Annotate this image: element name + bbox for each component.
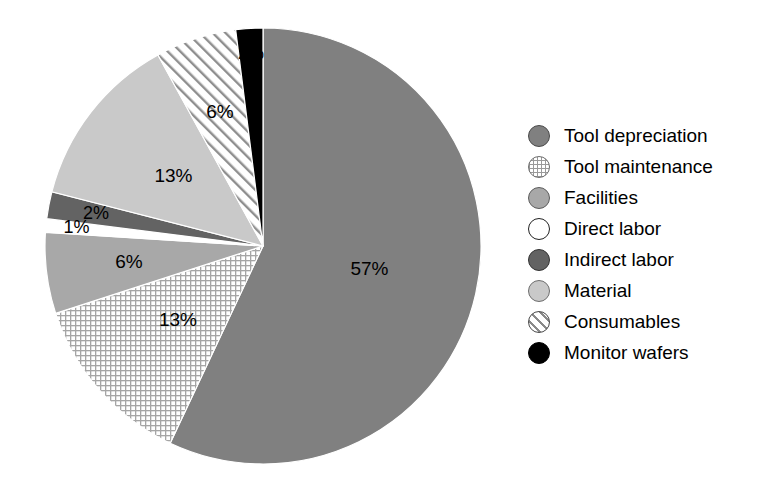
- pie-data-label-material: 13%: [154, 165, 192, 186]
- pie-data-label-indirect-labor: 2%: [83, 203, 109, 223]
- legend-swatch-icon: [528, 280, 550, 302]
- legend-item-label: Tool maintenance: [564, 157, 713, 176]
- pie-chart-area: 57%13%6%1%2%13%6%2%: [0, 0, 500, 479]
- legend-item-label: Indirect labor: [564, 250, 674, 269]
- legend-swatch-icon: [528, 342, 550, 364]
- legend-item-monitor-wafers[interactable]: Monitor wafers: [528, 337, 768, 368]
- legend-item-tool-depreciation[interactable]: Tool depreciation: [528, 120, 768, 151]
- pie-data-label-tool-maintenance: 13%: [159, 309, 197, 330]
- pie-chart-svg: 57%13%6%1%2%13%6%2%: [0, 0, 500, 479]
- legend-item-label: Monitor wafers: [564, 343, 689, 362]
- legend-item-label: Tool depreciation: [564, 126, 708, 145]
- legend-item-label: Direct labor: [564, 219, 661, 238]
- legend-item-tool-maintenance[interactable]: Tool maintenance: [528, 151, 768, 182]
- legend-swatch-icon: [528, 218, 550, 240]
- pie-data-label-consumables: 6%: [206, 101, 234, 122]
- legend-item-material[interactable]: Material: [528, 275, 768, 306]
- legend-item-label: Material: [564, 281, 632, 300]
- pie-data-label-monitor-wafers: 2%: [238, 43, 264, 63]
- legend-item-label: Consumables: [564, 312, 680, 331]
- legend-swatch-icon: [528, 311, 550, 333]
- legend-swatch-icon: [528, 249, 550, 271]
- legend-item-facilities[interactable]: Facilities: [528, 182, 768, 213]
- legend-swatch-icon: [528, 187, 550, 209]
- pie-slices-group: [45, 28, 481, 464]
- legend-swatch-icon: [528, 156, 550, 178]
- legend-swatch-icon: [528, 125, 550, 147]
- pie-data-label-tool-depreciation: 57%: [350, 258, 388, 279]
- legend-item-direct-labor[interactable]: Direct labor: [528, 213, 768, 244]
- legend-item-label: Facilities: [564, 188, 638, 207]
- pie-chart-figure: 57%13%6%1%2%13%6%2% Tool depreciationToo…: [0, 0, 777, 479]
- legend-item-consumables[interactable]: Consumables: [528, 306, 768, 337]
- pie-data-label-facilities: 6%: [115, 251, 143, 272]
- chart-legend: Tool depreciationTool maintenanceFacilit…: [528, 120, 768, 368]
- legend-item-indirect-labor[interactable]: Indirect labor: [528, 244, 768, 275]
